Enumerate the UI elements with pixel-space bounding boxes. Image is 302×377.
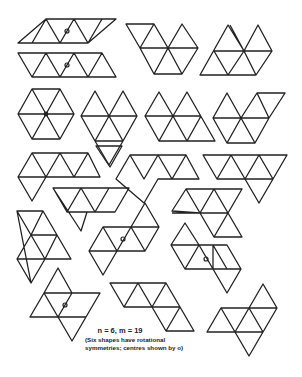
hexiamond-1 xyxy=(18,19,116,43)
caption-note: (Six shapes have rotational symmetries; … xyxy=(85,336,285,352)
hexiamond-13 xyxy=(53,188,129,231)
hexiamond-9 xyxy=(18,153,100,201)
hexiamond-4 xyxy=(200,25,272,75)
caption-note-line1: (Six shapes have rotational xyxy=(85,336,285,344)
hexiamond-7 xyxy=(145,92,215,141)
hexiamond-6 xyxy=(81,91,137,165)
hexiamond-12 xyxy=(203,155,287,203)
hexiamond-17 xyxy=(171,223,241,293)
caption-title: n = 6, m = 19 xyxy=(40,326,200,335)
hexiamond-14 xyxy=(172,189,242,237)
caption-note-line2: symmetries; centres shown by o) xyxy=(85,344,285,352)
hexiamond-2 xyxy=(18,53,116,77)
hexiamond-8 xyxy=(213,93,285,143)
hexiamond-11 xyxy=(116,155,199,203)
hexiamond-16 xyxy=(89,203,159,275)
hexiamond-figure xyxy=(0,0,302,377)
hexiamond-5 xyxy=(18,89,74,139)
hexiamond-19 xyxy=(110,283,194,331)
hexiamond-15 xyxy=(17,211,71,283)
hexiamond-3 xyxy=(126,24,198,74)
